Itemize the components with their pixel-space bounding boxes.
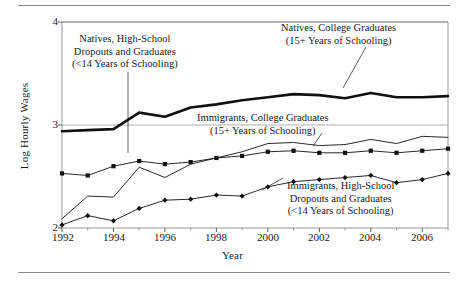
series-marker-immigrants-highschool-2006: [420, 177, 425, 182]
series-marker-immigrants-highschool-2004: [368, 173, 373, 178]
series-marker-natives-highschool-2000: [266, 150, 270, 154]
series-marker-natives-highschool-1993: [86, 173, 90, 177]
series-marker-immigrants-highschool-1993: [85, 213, 90, 218]
annotation-immigrants-highschool-line1: Immigrants, High-School: [287, 180, 394, 193]
annotation-immigrants-college-line1: Immigrants, College Graduates: [197, 112, 329, 125]
x-tick-label-1992: 1992: [43, 231, 83, 243]
x-tick-label-2004: 2004: [350, 231, 390, 243]
series-marker-natives-highschool-2003: [343, 151, 347, 155]
x-tick-label-1996: 1996: [145, 231, 185, 243]
series-marker-natives-highschool-1999: [240, 154, 244, 158]
series-marker-immigrants-highschool-1997: [188, 197, 193, 202]
y-tick-label-4: 4: [44, 15, 58, 27]
series-marker-natives-highschool-1995: [137, 159, 141, 163]
series-marker-natives-highschool-1994: [111, 164, 115, 168]
series-marker-immigrants-highschool-1994: [111, 218, 116, 223]
series-marker-natives-highschool-2002: [317, 151, 321, 155]
annotation-natives-college-line1: Natives, College Graduates: [281, 22, 396, 35]
series-marker-immigrants-highschool-2007: [445, 171, 450, 176]
x-axis-title: Year: [0, 249, 465, 261]
series-marker-immigrants-highschool-1998: [214, 192, 219, 197]
series-marker-natives-highschool-2005: [394, 151, 398, 155]
series-marker-natives-highschool-2007: [446, 147, 450, 151]
annotation-natives-highschool: Natives, High-School Dropouts and Gradua…: [72, 33, 178, 71]
series-marker-immigrants-highschool-1996: [162, 198, 167, 203]
y-axis-title: Log Hourly Wages: [18, 71, 30, 181]
annotation-natives-highschool-line3: (<14 Years of Schooling): [72, 58, 178, 71]
annotation-immigrants-highschool: Immigrants, High-School Dropouts and Gra…: [287, 180, 394, 218]
series-marker-natives-highschool-2001: [292, 149, 296, 153]
x-tick-label-2006: 2006: [402, 231, 442, 243]
series-marker-immigrants-highschool-2005: [394, 180, 399, 185]
x-tick-label-1998: 1998: [196, 231, 236, 243]
annotation-natives-highschool-line1: Natives, High-School: [72, 33, 178, 46]
x-tick-label-2002: 2002: [299, 231, 339, 243]
annotation-immigrants-highschool-line2: Dropouts and Graduates: [287, 193, 394, 206]
annotation-immigrants-college-line2: (15+ Years of Schooling): [197, 125, 329, 138]
series-marker-natives-highschool-2004: [369, 149, 373, 153]
annotation-natives-college-line2: (15+ Years of Schooling): [281, 35, 396, 48]
series-marker-immigrants-highschool-2000: [265, 184, 270, 189]
y-tick-label-3: 3: [44, 118, 58, 130]
series-marker-natives-highschool-2006: [420, 149, 424, 153]
annotation-natives-college: Natives, College Graduates (15+ Years of…: [281, 22, 396, 47]
series-marker-immigrants-highschool-1995: [137, 206, 142, 211]
x-tick-label-1994: 1994: [94, 231, 134, 243]
series-line-natives-highschool: [62, 149, 448, 176]
series-marker-immigrants-highschool-1999: [240, 193, 245, 198]
series-marker-natives-highschool-1992: [60, 171, 64, 175]
figure-container: Log Hourly Wages Year 4 3 2 1992 1994 19…: [0, 0, 465, 284]
series-marker-natives-highschool-1996: [163, 162, 167, 166]
x-tick-label-2000: 2000: [248, 231, 288, 243]
annotation-immigrants-college: Immigrants, College Graduates (15+ Years…: [197, 112, 329, 137]
series-marker-natives-highschool-1997: [189, 160, 193, 164]
annotation-natives-highschool-line2: Dropouts and Graduates: [72, 46, 178, 59]
annotation-immigrants-highschool-line3: (<14 Years of Schooling): [287, 205, 394, 218]
series-marker-immigrants-highschool-1992: [59, 222, 64, 227]
leader-line-natives-college: [343, 47, 366, 88]
series-marker-natives-highschool-1998: [214, 156, 218, 160]
